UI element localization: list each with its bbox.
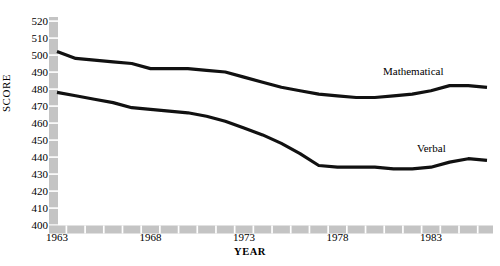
y-axis-tick-mark xyxy=(49,54,58,56)
plot-area xyxy=(0,0,500,266)
series-line-verbal xyxy=(57,92,487,168)
x-axis-tick-label: 1983 xyxy=(420,231,442,243)
y-axis-tick-mark xyxy=(49,37,58,39)
y-axis-tick-mark xyxy=(49,207,58,209)
sat-score-line-chart: SCORE 4004104204304404504604704804905005… xyxy=(0,0,500,266)
y-axis-bar xyxy=(49,17,58,233)
y-axis-tick-mark xyxy=(49,156,58,158)
y-axis-tick-mark xyxy=(49,71,58,73)
y-axis-tick-mark xyxy=(49,20,58,22)
x-axis-tick-labels: 19631968197319781983 xyxy=(0,231,500,247)
y-axis-tick-mark xyxy=(49,122,58,124)
series-label-verbal: Verbal xyxy=(417,142,446,154)
y-axis-tick-mark xyxy=(49,173,58,175)
x-axis-tick-label: 1978 xyxy=(326,231,348,243)
y-axis-tick-mark xyxy=(49,190,58,192)
x-axis-tick-label: 1968 xyxy=(139,231,161,243)
series-label-mathematical: Mathematical xyxy=(383,65,443,77)
x-axis-title: YEAR xyxy=(0,246,500,257)
y-axis-tick-mark xyxy=(49,139,58,141)
x-axis-tick-label: 1973 xyxy=(233,231,255,243)
y-axis-tick-mark xyxy=(49,105,58,107)
x-axis-tick-label: 1963 xyxy=(46,231,68,243)
y-axis-tick-mark xyxy=(49,88,58,90)
